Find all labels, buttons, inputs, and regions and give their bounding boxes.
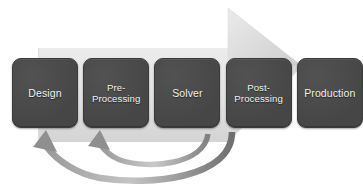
stage-box-pre-processing[interactable]: Pre- Processing — [83, 58, 149, 128]
stage-label-pre-processing: Pre- Processing — [89, 82, 143, 105]
stage-box-production[interactable]: Production — [297, 58, 363, 128]
stage-box-post-processing[interactable]: Post- Processing — [226, 58, 292, 128]
stage-label-solver: Solver — [169, 87, 205, 99]
stage-box-design[interactable]: Design — [12, 58, 78, 128]
stage-label-post-processing: Post- Processing — [231, 82, 285, 105]
stage-label-production: Production — [301, 87, 358, 99]
stage-label-design: Design — [25, 87, 64, 99]
stage-box-solver[interactable]: Solver — [154, 58, 220, 128]
